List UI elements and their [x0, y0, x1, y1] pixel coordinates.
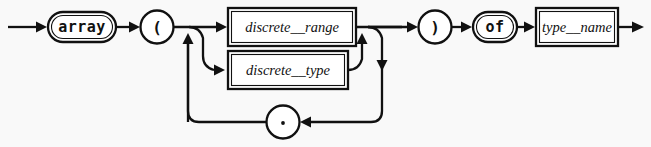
arrowhead-type-merge-up [357, 33, 368, 44]
node-label-lparen: ( [141, 20, 173, 36]
arrowhead-into-of [461, 22, 472, 33]
arrowhead-into-rparen [407, 22, 418, 33]
node-label-type-name: type__name [536, 20, 618, 35]
node-label-of: of [473, 20, 517, 35]
arrowhead-into-discrete-range [216, 22, 227, 33]
node-label-array: array [48, 20, 116, 35]
rail-type-up-to-main [348, 44, 362, 70]
arrowhead-into-typename [524, 22, 535, 33]
arrowhead-exit [632, 22, 644, 33]
arrowhead-loop-right-down [377, 60, 388, 71]
rail-fork-down-to-type [189, 27, 214, 70]
railroad-diagram: array ( discrete__range discrete__type ,… [0, 0, 651, 147]
node-label-discrete-range: discrete__range [228, 20, 356, 35]
arrowhead-loop-left-up [183, 33, 194, 44]
rail-loop-right-down [368, 27, 382, 122]
comma-dot [281, 121, 285, 125]
arrowhead-into-array [36, 22, 47, 33]
node-label-discrete-type: discrete__type [228, 63, 348, 78]
arrowhead-into-comma [300, 117, 311, 128]
arrowhead-into-discrete-type [214, 65, 225, 76]
arrowhead-into-lparen [129, 22, 140, 33]
node-label-rparen: ) [419, 20, 451, 36]
